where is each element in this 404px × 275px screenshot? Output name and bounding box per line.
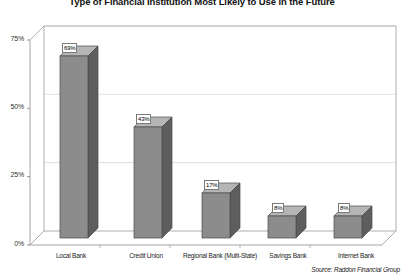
bar-value-label-savings-bank: 8% bbox=[272, 203, 284, 213]
ytick-label-0: 0% bbox=[0, 240, 24, 247]
category-label-regional-bank: Regional Bank (Multi-State) bbox=[181, 252, 259, 260]
bar-value-label-credit-union: 43% bbox=[136, 114, 151, 124]
category-label-savings-bank: Savings Bank bbox=[252, 252, 324, 260]
category-label-credit-union: Credit Union bbox=[110, 252, 182, 260]
bar-regional-bank[interactable] bbox=[202, 183, 240, 238]
category-label-local-bank: Local Bank bbox=[36, 252, 106, 260]
bar-value-label-internet-bank: 8% bbox=[338, 203, 350, 213]
ytick-label-75: 75% bbox=[0, 35, 24, 42]
floor-right-edge bbox=[382, 231, 396, 245]
bar-credit-union[interactable] bbox=[134, 117, 172, 238]
axis-depth-bottom-edge bbox=[30, 231, 44, 245]
category-label-internet-bank: Internet Bank bbox=[320, 252, 392, 260]
ytick-label-50: 50% bbox=[0, 103, 24, 110]
ytick-label-25: 25% bbox=[0, 171, 24, 178]
bar-local-bank[interactable] bbox=[60, 46, 98, 238]
axis-depth-top-edge bbox=[30, 26, 44, 40]
bar-value-label-regional-bank: 17% bbox=[204, 180, 219, 190]
chart-container: Type of Financial Institution Most Likel… bbox=[0, 0, 404, 275]
plot-area bbox=[0, 0, 404, 275]
source-note: Source: Raddon Financial Group bbox=[311, 266, 400, 273]
bar-value-label-local-bank: 69% bbox=[62, 43, 77, 53]
